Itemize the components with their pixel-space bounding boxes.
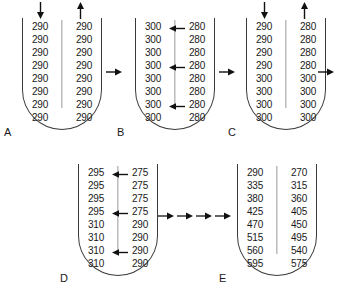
cell-left: 290	[248, 20, 280, 33]
arrow-right-icon	[215, 210, 231, 222]
table-row: 295275	[76, 166, 160, 179]
cell-right: 270	[283, 166, 315, 179]
cell-right: 280	[292, 20, 324, 33]
cell-left: 300	[137, 20, 169, 33]
cell-left: 300	[137, 33, 169, 46]
cell-right: 280	[181, 33, 213, 46]
cell-left: 300	[248, 72, 280, 85]
panel-label-b: B	[117, 126, 124, 138]
panel-label-d: D	[60, 272, 68, 284]
cell-right: 405	[283, 205, 315, 218]
cell-right: 315	[283, 179, 315, 192]
tube-panel-a: 290290 290290 290290 290290 290290 29029…	[20, 0, 104, 148]
table-row: 290290	[20, 33, 104, 46]
cell-right: 290	[68, 46, 100, 59]
tube-panel-c: 290280 290280 290280 290280 300300 30030…	[244, 0, 328, 148]
cell-left: 300	[137, 98, 169, 111]
arrow-right-icon	[318, 66, 334, 78]
cell-left: 300	[137, 111, 169, 124]
cell-left: 290	[24, 72, 56, 85]
cell-right: 280	[181, 111, 213, 124]
cell-left: 310	[80, 231, 112, 244]
arrow-up-icon	[76, 2, 85, 19]
value-grid-e: 290270 335315 380360 425405 470450 51549…	[235, 166, 319, 270]
cell-left: 290	[24, 85, 56, 98]
table-row: 300300	[244, 111, 328, 124]
table-row: 290290	[20, 98, 104, 111]
value-grid-b: 300280 300280 300280 300280 300280 30028…	[133, 20, 217, 124]
cell-left: 295	[80, 166, 112, 179]
cell-left: 310	[80, 257, 112, 270]
table-row: 290290	[20, 72, 104, 85]
cell-left: 295	[80, 179, 112, 192]
cell-right: 290	[68, 98, 100, 111]
cell-left: 310	[80, 218, 112, 231]
cell-left: 290	[24, 20, 56, 33]
table-row: 335315	[235, 179, 319, 192]
cell-right: 290	[124, 244, 156, 257]
cell-left: 380	[239, 192, 271, 205]
cell-right: 275	[124, 205, 156, 218]
arrow-right-icon	[219, 66, 235, 78]
cell-right: 280	[181, 72, 213, 85]
table-row: 300280	[133, 72, 217, 85]
table-row: 380360	[235, 192, 319, 205]
table-row: 290290	[20, 59, 104, 72]
arrow-up-icon	[300, 2, 309, 19]
table-row: 295275	[76, 179, 160, 192]
cell-left: 290	[24, 59, 56, 72]
cell-right: 290	[124, 218, 156, 231]
cell-right: 300	[292, 85, 324, 98]
table-row: 290290	[20, 20, 104, 33]
cell-left: 300	[137, 46, 169, 59]
arrow-right-icon	[158, 210, 174, 222]
value-grid-d: 295275 295275 295275 295275 310290 31029…	[76, 166, 160, 270]
cell-right: 360	[283, 192, 315, 205]
cell-left: 300	[248, 111, 280, 124]
cell-right: 280	[181, 20, 213, 33]
table-row: 425405	[235, 205, 319, 218]
cell-right: 280	[292, 33, 324, 46]
cell-left: 295	[80, 192, 112, 205]
cell-right: 290	[124, 257, 156, 270]
cell-left: 560	[239, 244, 271, 257]
arrow-right-icon	[106, 66, 122, 78]
cell-left: 290	[248, 59, 280, 72]
transfer-arrow-left-icon	[112, 249, 128, 256]
table-row: 290290	[20, 46, 104, 59]
tube-panel-d: 295275 295275 295275 295275 310290 31029…	[76, 146, 160, 291]
table-row: 300300	[244, 72, 328, 85]
cell-left: 290	[248, 33, 280, 46]
cell-right: 275	[124, 192, 156, 205]
table-row: 290290	[20, 85, 104, 98]
table-row: 300280	[133, 33, 217, 46]
transfer-arrow-left-icon	[112, 210, 128, 217]
cell-left: 290	[24, 111, 56, 124]
cell-left: 290	[24, 46, 56, 59]
table-row: 300280	[133, 98, 217, 111]
cell-right: 275	[124, 179, 156, 192]
table-row: 300280	[133, 46, 217, 59]
cell-left: 595	[239, 257, 271, 270]
cell-right: 495	[283, 231, 315, 244]
cell-right: 290	[68, 85, 100, 98]
table-row: 300280	[133, 20, 217, 33]
cell-left: 470	[239, 218, 271, 231]
stage-row-top: 290290 290290 290290 290290 290290 29029…	[0, 0, 337, 148]
cell-right: 575	[283, 257, 315, 270]
cell-right: 290	[68, 72, 100, 85]
cell-right: 300	[292, 111, 324, 124]
cell-right: 280	[181, 46, 213, 59]
arrow-right-icon	[196, 210, 212, 222]
cell-right: 290	[68, 33, 100, 46]
cell-right: 280	[181, 98, 213, 111]
table-row: 295275	[76, 192, 160, 205]
cell-left: 295	[80, 205, 112, 218]
table-row: 290280	[244, 33, 328, 46]
arrow-right-icon	[177, 210, 193, 222]
table-row: 290280	[244, 59, 328, 72]
cell-right: 280	[292, 46, 324, 59]
transfer-arrow-left-icon	[169, 103, 185, 110]
transfer-arrow-left-icon	[112, 171, 128, 178]
cell-left: 300	[248, 85, 280, 98]
